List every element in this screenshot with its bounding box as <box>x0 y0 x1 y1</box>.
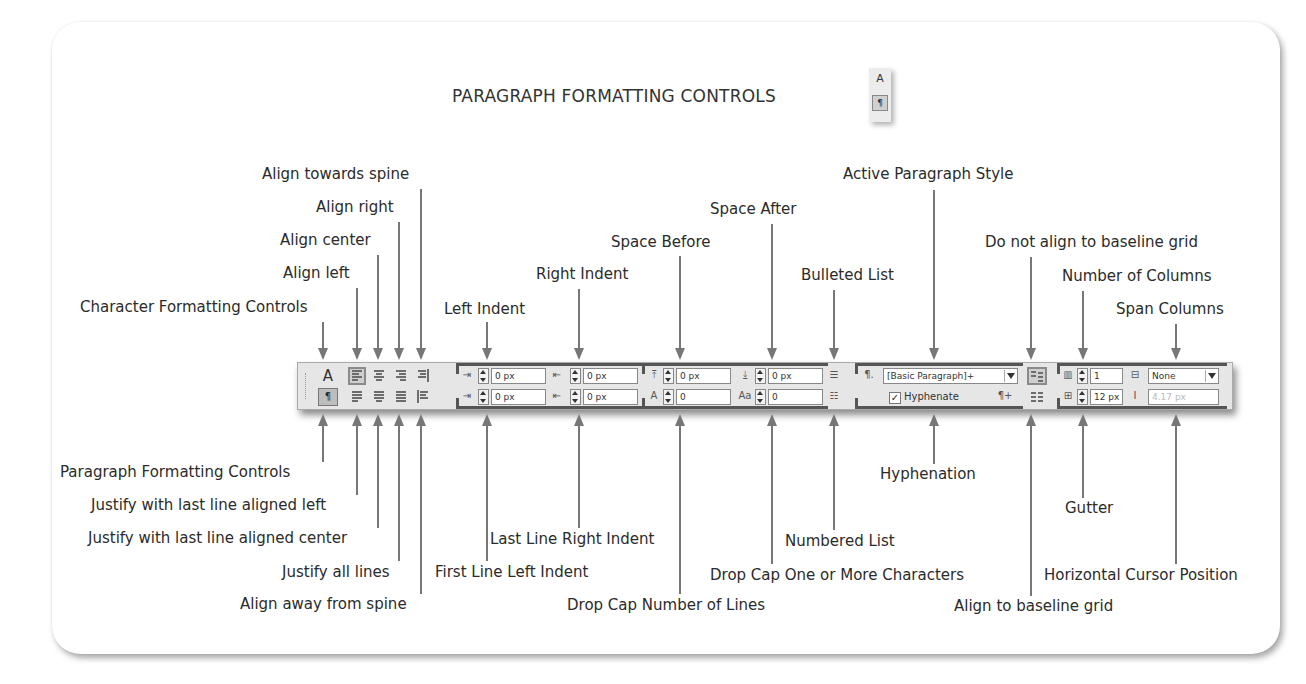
paragraph-formatting-mode-button[interactable]: ¶ <box>318 388 338 406</box>
space-after-field[interactable]: 0 px <box>768 368 823 384</box>
arrow-down-icon <box>352 348 362 360</box>
left-indent-field[interactable]: 0 px <box>491 368 546 384</box>
arrow-line <box>771 224 773 350</box>
label-gutter: Gutter <box>1065 499 1113 517</box>
arrow-line <box>933 190 935 350</box>
arrow-down-icon <box>574 348 584 360</box>
paragraph-control-panel: A ¶ ⇥ 0 px ⇥ 0 px ⇤ 0 px ⇤ 0 px ⤒ 0 px A… <box>297 362 1233 410</box>
hyphenate-label: Hyphenate <box>904 391 959 402</box>
label-numbered-list: Numbered List <box>785 532 895 550</box>
arrow-line <box>486 322 488 350</box>
arrow-line <box>1175 424 1177 564</box>
gutter-stepper[interactable] <box>1077 389 1088 405</box>
arrow-line <box>420 424 422 594</box>
arrow-line <box>322 322 324 350</box>
gutter-field[interactable]: 12 px <box>1090 389 1123 405</box>
arrow-down-icon <box>929 348 939 360</box>
span-columns-dropdown[interactable]: None <box>1148 368 1219 384</box>
columns-icon: ▥ <box>1061 368 1075 382</box>
hyphenate-checkbox[interactable]: ✓ <box>889 392 901 404</box>
align-center-button[interactable] <box>372 369 386 383</box>
panel-grip-handle[interactable] <box>305 373 308 399</box>
label-drop-cap-chars: Drop Cap One or More Characters <box>710 566 964 584</box>
span-columns-value: None <box>1152 371 1175 381</box>
arrow-down-icon <box>1026 348 1036 360</box>
label-align-center: Align center <box>280 231 371 249</box>
drop-cap-chars-field[interactable]: 0 <box>768 389 823 405</box>
new-paragraph-style-icon[interactable]: ¶+ <box>996 389 1014 403</box>
bulleted-list-icon[interactable]: ☰ <box>827 368 841 382</box>
space-after-stepper[interactable] <box>755 368 766 384</box>
arrow-line <box>833 424 835 530</box>
align-to-baseline-button[interactable] <box>1029 390 1045 404</box>
align-away-from-spine-button[interactable] <box>416 390 430 404</box>
arrow-line <box>420 189 422 350</box>
label-drop-cap-lines: Drop Cap Number of Lines <box>567 596 765 614</box>
chevron-down-icon <box>1208 373 1216 379</box>
numbered-list-icon[interactable]: ☷ <box>827 389 841 403</box>
character-formatting-mode-button[interactable]: A <box>320 368 336 384</box>
gutter-icon: ⊞ <box>1061 389 1075 403</box>
arrow-line <box>377 255 379 350</box>
right-indent-field[interactable]: 0 px <box>583 368 638 384</box>
arrow-line <box>578 289 580 350</box>
space-before-field[interactable]: 0 px <box>676 368 731 384</box>
label-bulleted-list: Bulleted List <box>801 266 894 284</box>
do-not-align-baseline-button[interactable] <box>1029 369 1045 383</box>
arrow-line <box>1082 291 1084 350</box>
justify-last-center-button[interactable] <box>372 390 386 404</box>
label-justify-last-left: Justify with last line aligned left <box>91 496 326 514</box>
label-hyphenation: Hyphenation <box>880 465 976 483</box>
label-align-to-baseline: Align to baseline grid <box>954 597 1113 615</box>
paragraph-style-icon: ¶. <box>860 368 878 382</box>
page-title: PARAGRAPH FORMATTING CONTROLS <box>452 86 776 106</box>
last-line-right-indent-field[interactable]: 0 px <box>583 389 638 405</box>
label-right-indent: Right Indent <box>536 265 628 283</box>
arrow-line <box>1030 424 1032 596</box>
text-cursor-icon: I <box>1126 389 1144 403</box>
arrow-down-icon <box>416 348 426 360</box>
first-line-indent-icon: ⇥ <box>460 389 474 403</box>
columns-field[interactable]: 1 <box>1090 368 1123 384</box>
space-after-icon: ⤓ <box>738 368 752 382</box>
paragraph-mode-glyph: ¶ <box>872 95 888 111</box>
arrow-line <box>398 424 400 561</box>
drop-cap-lines-field[interactable]: 0 <box>676 389 731 405</box>
label-space-after: Space After <box>710 200 797 218</box>
span-columns-icon: ⊟ <box>1126 368 1144 382</box>
label-align-left: Align left <box>283 264 350 282</box>
columns-stepper[interactable] <box>1077 368 1088 384</box>
arrow-line <box>833 290 835 350</box>
first-line-indent-stepper[interactable] <box>478 389 489 405</box>
arrow-line <box>679 256 681 350</box>
label-do-not-align-baseline: Do not align to baseline grid <box>985 233 1198 251</box>
cursor-position-field: 4.17 px <box>1148 389 1219 405</box>
label-align-towards-spine: Align towards spine <box>262 165 409 183</box>
arrow-line <box>377 424 379 528</box>
align-right-button[interactable] <box>394 369 408 383</box>
space-before-icon: ⤒ <box>647 368 661 382</box>
arrow-down-icon <box>394 348 404 360</box>
drop-cap-chars-icon: Aa <box>738 389 752 403</box>
arrow-line <box>356 424 358 495</box>
label-character-formatting-controls: Character Formatting Controls <box>80 298 308 316</box>
justify-last-left-button[interactable] <box>350 390 364 404</box>
left-indent-stepper[interactable] <box>478 368 489 384</box>
arrow-line <box>1175 324 1177 350</box>
arrow-down-icon <box>675 348 685 360</box>
arrow-down-icon <box>482 348 492 360</box>
justify-all-lines-button[interactable] <box>394 390 408 404</box>
paragraph-style-dropdown[interactable]: [Basic Paragraph]+ <box>883 368 1018 384</box>
last-line-right-indent-stepper[interactable] <box>570 389 581 405</box>
arrow-line <box>771 424 773 564</box>
align-left-button[interactable] <box>350 369 364 383</box>
drop-cap-chars-stepper[interactable] <box>755 389 766 405</box>
first-line-indent-field[interactable]: 0 px <box>491 389 546 405</box>
drop-cap-lines-stepper[interactable] <box>663 389 674 405</box>
arrow-line <box>1082 424 1084 498</box>
space-before-stepper[interactable] <box>663 368 674 384</box>
left-indent-icon: ⇥ <box>460 368 474 382</box>
label-active-paragraph-style: Active Paragraph Style <box>843 165 1013 183</box>
align-towards-spine-button[interactable] <box>416 369 430 383</box>
right-indent-stepper[interactable] <box>570 368 581 384</box>
